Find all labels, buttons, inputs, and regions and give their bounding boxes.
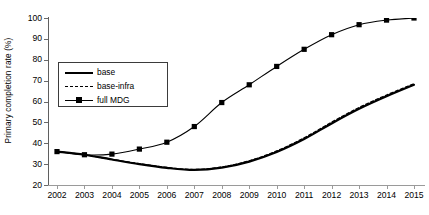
y-tick-label-40: 40: [14, 139, 42, 148]
y-tick-mark-20: [44, 185, 48, 186]
x-tick-mark-2015: [414, 186, 415, 189]
x-tick-mark-2002: [57, 186, 58, 189]
x-tick-label-2005: 2005: [124, 190, 154, 200]
x-tick-mark-2004: [112, 186, 113, 189]
x-tick-label-2007: 2007: [179, 190, 209, 200]
data-point-marker: [274, 64, 279, 69]
data-point-marker: [219, 100, 224, 105]
x-tick-label-2008: 2008: [207, 190, 237, 200]
legend-label-base-infra: base-infra: [97, 79, 134, 94]
x-tick-mark-2010: [277, 186, 278, 189]
legend-item-full-mdg: full MDG: [59, 93, 169, 108]
data-point-marker: [109, 152, 114, 157]
x-tick-label-2015: 2015: [399, 190, 429, 200]
data-point-marker: [54, 149, 59, 154]
data-point-marker: [164, 140, 169, 145]
x-tick-mark-2009: [249, 186, 250, 189]
y-tick-label-60: 60: [14, 97, 42, 106]
legend-item-base: base: [59, 65, 169, 80]
x-tick-label-2002: 2002: [42, 190, 72, 200]
data-point-marker: [302, 47, 307, 52]
data-point-marker: [356, 22, 361, 27]
chart-legend: base base-infra full MDG: [58, 62, 168, 107]
y-tick-label-50: 50: [14, 118, 42, 127]
solid-line-sample: [65, 65, 93, 80]
legend-label-full-mdg: full MDG: [97, 93, 130, 108]
x-tick-label-2013: 2013: [344, 190, 374, 200]
chart-figure: Primary completion rate (%) 100908070605…: [0, 0, 429, 215]
x-tick-mark-2007: [194, 186, 195, 189]
x-tick-label-2011: 2011: [289, 190, 319, 200]
x-axis-line: [48, 185, 425, 186]
y-tick-label-80: 80: [14, 55, 42, 64]
data-point-marker: [82, 152, 87, 157]
data-point-marker: [329, 32, 334, 37]
x-tick-mark-2008: [222, 186, 223, 189]
y-tick-label-90: 90: [14, 34, 42, 43]
x-tick-mark-2011: [304, 186, 305, 189]
x-tick-label-2006: 2006: [152, 190, 182, 200]
x-tick-mark-2014: [387, 186, 388, 189]
data-point-marker: [192, 124, 197, 129]
x-tick-mark-2006: [167, 186, 168, 189]
y-tick-label-30: 30: [14, 160, 42, 169]
legend-label-base: base: [97, 65, 115, 80]
x-tick-mark-2012: [332, 186, 333, 189]
legend-item-base-infra: base-infra: [59, 79, 169, 94]
y-tick-label-70: 70: [14, 76, 42, 85]
x-tick-label-2009: 2009: [234, 190, 264, 200]
data-point-marker: [384, 18, 389, 23]
x-tick-label-2004: 2004: [97, 190, 127, 200]
data-point-marker: [137, 147, 142, 152]
x-tick-mark-2003: [84, 186, 85, 189]
x-tick-label-2003: 2003: [69, 190, 99, 200]
x-tick-label-2012: 2012: [317, 190, 347, 200]
y-tick-label-20: 20: [14, 181, 42, 190]
y-tick-label-100: 100: [14, 14, 42, 23]
data-point-marker: [411, 18, 416, 21]
x-tick-label-2010: 2010: [262, 190, 292, 200]
x-tick-mark-2013: [359, 186, 360, 189]
data-point-marker: [247, 82, 252, 87]
x-tick-label-2014: 2014: [372, 190, 402, 200]
dashed-line-sample: [65, 79, 93, 94]
square-marker-line-sample: [65, 93, 93, 108]
x-tick-mark-2005: [139, 186, 140, 189]
